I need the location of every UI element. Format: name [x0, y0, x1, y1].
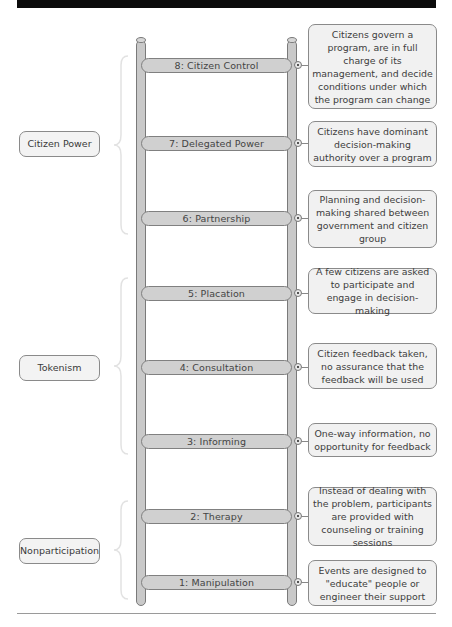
description-4-text: Citizen feedback taken, no assurance tha…	[312, 347, 433, 386]
description-2-text: Instead of dealing with the problem, par…	[312, 484, 433, 549]
rung-6-partnership: 6: Partnership	[141, 211, 292, 226]
rung-2-therapy: 2: Therapy	[141, 509, 292, 524]
description-2: Instead of dealing with the problem, par…	[308, 487, 437, 546]
description-8: Citizens govern a program, are in full c…	[308, 24, 437, 109]
description-3-text: One-way information, no opportunity for …	[312, 427, 433, 453]
ladder-right-rail-cap	[287, 37, 297, 43]
description-5: A few citizens are asked to participate …	[308, 268, 437, 314]
description-4: Citizen feedback taken, no assurance tha…	[308, 343, 437, 389]
description-6-text: Planning and decision-making shared betw…	[312, 193, 433, 245]
brace-tokenism	[113, 277, 129, 455]
footer-divider	[17, 613, 436, 614]
rung-8-citizen-control: 8: Citizen Control	[141, 58, 292, 73]
rung-3-informing: 3: Informing	[141, 434, 292, 449]
category-tokenism: Tokenism	[19, 355, 100, 381]
category-citizen-power: Citizen Power	[19, 131, 100, 157]
description-5-text: A few citizens are asked to participate …	[312, 265, 433, 317]
brace-citizen-power	[113, 55, 129, 235]
description-7: Citizens have dominant decision-making a…	[308, 121, 437, 167]
description-8-text: Citizens govern a program, are in full c…	[312, 28, 433, 106]
description-1: Events are designed to "educate" people …	[308, 560, 437, 606]
rung-7-delegated-power: 7: Delegated Power	[141, 136, 292, 151]
description-3: One-way information, no opportunity for …	[308, 423, 437, 457]
rung-1-manipulation: 1: Manipulation	[141, 575, 292, 590]
description-1-text: Events are designed to "educate" people …	[312, 564, 433, 603]
category-nonparticipation: Nonparticipation	[19, 538, 100, 564]
ladder-left-rail-cap	[136, 37, 146, 43]
rung-5-placation: 5: Placation	[141, 286, 292, 301]
header-bar	[17, 0, 436, 8]
description-6: Planning and decision-making shared betw…	[308, 190, 437, 248]
rung-4-consultation: 4: Consultation	[141, 360, 292, 375]
brace-nonparticipation	[113, 500, 129, 600]
description-7-text: Citizens have dominant decision-making a…	[312, 125, 433, 164]
